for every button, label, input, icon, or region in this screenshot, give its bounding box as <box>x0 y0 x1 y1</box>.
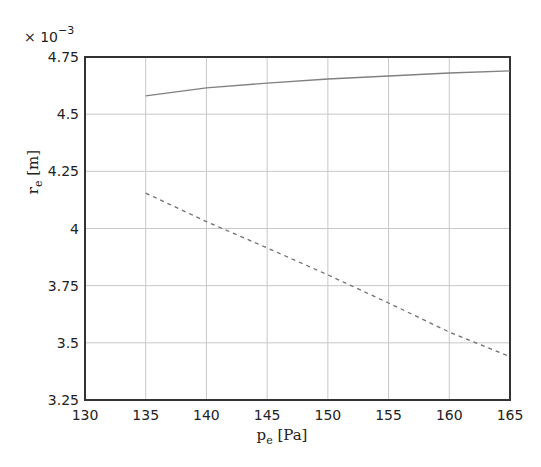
chart: 130135140145150155160165 3.253.53.7544.2… <box>0 0 541 467</box>
x-tick-label: 130 <box>72 407 99 423</box>
x-tick-label: 135 <box>132 407 159 423</box>
y-tick-label: 4.25 <box>48 163 79 179</box>
y-tick-label: 3.75 <box>48 278 79 294</box>
x-axis-label: pe [Pa] <box>257 426 308 447</box>
y-tick-label: 4.75 <box>48 49 79 65</box>
y-tick-label: 3.25 <box>48 392 79 408</box>
y-axis-label: re [m] <box>24 150 45 194</box>
x-tick-label: 165 <box>497 407 524 423</box>
y-axis-ticks: 3.253.53.7544.254.54.75 <box>48 49 79 408</box>
grid-lines <box>85 57 510 400</box>
x-tick-label: 140 <box>193 407 220 423</box>
x-tick-label: 160 <box>436 407 463 423</box>
y-tick-label: 4.5 <box>57 106 79 122</box>
y-tick-label: 4 <box>70 221 79 237</box>
y-multiplier: × 10−3 <box>24 24 74 45</box>
x-tick-label: 145 <box>254 407 281 423</box>
y-tick-label: 3.5 <box>57 335 79 351</box>
x-tick-label: 155 <box>375 407 402 423</box>
x-axis-ticks: 130135140145150155160165 <box>72 407 524 423</box>
x-tick-label: 150 <box>314 407 341 423</box>
